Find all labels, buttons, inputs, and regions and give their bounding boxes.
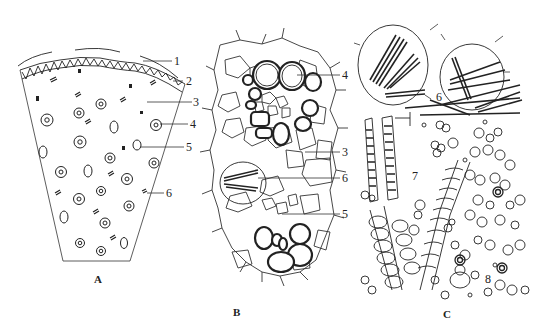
callout-b-4: 4 (342, 68, 348, 82)
callout-a-2: 2 (186, 74, 192, 88)
callout-a-5: 5 (186, 140, 192, 154)
callout-a-1: 1 (174, 54, 180, 68)
callout-c-7: 7 (412, 169, 418, 183)
callout-a-3: 3 (193, 95, 199, 109)
callout-c-6: 6 (436, 90, 442, 104)
panel-label-c: C (443, 308, 451, 320)
callout-a-6: 6 (166, 186, 172, 200)
callout-c-8: 8 (485, 272, 491, 286)
callout-b-6: 6 (342, 171, 348, 185)
callout-b-5: 5 (342, 207, 348, 221)
panel-c: 6 7 8 C (354, 24, 529, 320)
callout-a-4: 4 (190, 117, 196, 131)
callout-b-3: 3 (342, 145, 348, 159)
panel-a: 1 2 3 4 5 6 A (18, 48, 199, 285)
botanical-figure: 1 2 3 4 5 6 A (0, 0, 544, 331)
panel-label-a: A (94, 273, 102, 285)
panel-b: 4 3 6 5 B (200, 28, 348, 318)
panel-label-b: B (233, 306, 241, 318)
